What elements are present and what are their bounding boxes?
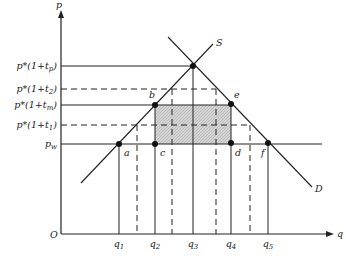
y-axis-arrow-icon <box>58 10 64 18</box>
price-label-pw: pw <box>45 138 57 151</box>
quantity-label-q1: q1 <box>114 238 125 251</box>
x-axis-label: q <box>337 228 343 239</box>
price-label-tm: p*(1+tm) <box>14 99 57 112</box>
point-equilibrium <box>190 63 196 69</box>
point-d <box>228 140 234 146</box>
quantity-label-q4: q4 <box>226 238 237 251</box>
point-a <box>116 141 122 147</box>
point-label-b: b <box>149 89 155 100</box>
demand-label: D <box>314 183 323 194</box>
origin-label: O <box>50 229 58 240</box>
y-axis-label: p <box>56 0 62 10</box>
price-label-t2: p*(1+t2) <box>16 83 57 96</box>
point-label-a: a <box>124 147 130 158</box>
point-f <box>265 140 271 146</box>
quantity-label-q3: q3 <box>188 238 199 251</box>
diagram-canvas: p*(1+tp)p*(1+t2)p*(1+tm)p*(1+t1)pwq1q2q3… <box>0 0 346 261</box>
supply-label: S <box>216 37 223 48</box>
price-label-tp: p*(1+tp) <box>16 60 57 73</box>
point-label-d: d <box>235 147 241 158</box>
point-label-e: e <box>234 89 240 100</box>
point-b <box>152 102 158 108</box>
point-label-f: f <box>260 147 266 158</box>
x-axis-arrow-icon <box>326 231 334 237</box>
point-e <box>228 101 234 107</box>
point-label-c: c <box>160 147 166 158</box>
price-label-t1: p*(1+t1) <box>16 119 57 132</box>
point-c <box>152 141 158 147</box>
quantity-label-q2: q2 <box>150 238 161 251</box>
quantity-label-q5: q5 <box>263 238 274 251</box>
